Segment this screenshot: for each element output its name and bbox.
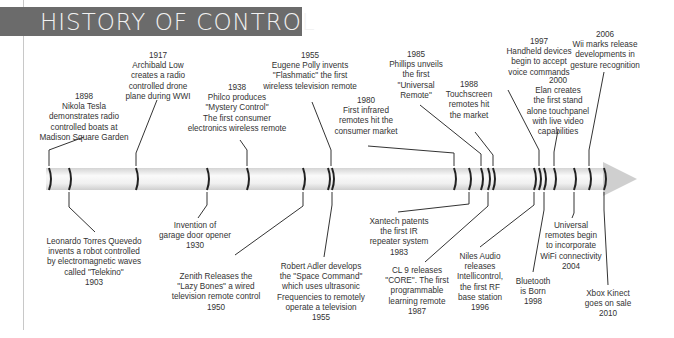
event-label-1955: 1955Eugene Polly invents"Flashmatic" the…: [263, 51, 357, 92]
event-label-1980: 1980First infraredremotes hit theconsume…: [334, 96, 397, 137]
event-text: base station: [457, 293, 503, 303]
event-text: Phillips unveils: [389, 60, 443, 70]
event-year: 2004: [540, 262, 601, 272]
event-year: 2010: [585, 309, 631, 319]
event-text: First infrared: [334, 106, 397, 116]
event-text: by electromagnetic waves: [47, 257, 142, 267]
event-label-1930: Invention ofgarage door opener1930: [159, 221, 231, 252]
event-year: 1998: [516, 297, 551, 307]
event-text: capabilities: [527, 127, 589, 137]
event-text: "CORE". The first: [385, 276, 448, 286]
event-text: garage door opener: [159, 231, 231, 241]
event-year: 1917: [125, 51, 190, 61]
event-label-1898: 1898Nikola Teslademonstrates radiocontro…: [39, 92, 128, 143]
event-label-1997: 1997Handheld devicesbegin to acceptvoice…: [506, 37, 571, 78]
event-text: programmable: [385, 286, 448, 296]
event-text: CL 9 releases: [385, 266, 448, 276]
event-text: Philco produces: [188, 93, 287, 103]
event-text: the market: [446, 111, 492, 121]
event-text: Niles Audio: [457, 252, 503, 262]
event-text: begin to accept: [506, 57, 571, 67]
event-text: "Flashmatic" the first: [263, 71, 357, 81]
event-text: "Lazy Bones" a wired: [172, 282, 261, 292]
event-year: 2006: [570, 30, 640, 40]
event-year: 1996: [457, 303, 503, 313]
event-label-1988: 1988Touchscreenremotes hitthe market: [446, 80, 492, 121]
event-text: learning remote: [385, 297, 448, 307]
event-text: Universal: [540, 221, 601, 231]
event-year: 1997: [506, 37, 571, 47]
event-text: the first IR: [369, 227, 428, 237]
event-text: Frequencies to remotely: [277, 293, 365, 303]
event-label-1903: Leonardo Torres Quevedoinvents a robot c…: [47, 237, 142, 288]
event-text: Zenith Releases the: [172, 272, 261, 282]
event-text: the first stand: [527, 96, 589, 106]
event-text: Elan creates: [527, 86, 589, 96]
event-text: Handheld devices: [506, 47, 571, 57]
event-year: 1903: [47, 278, 142, 288]
event-text: television remote control: [172, 292, 261, 302]
event-text: Leonardo Torres Quevedo: [47, 237, 142, 247]
event-text: which uses ultrasonic: [277, 282, 365, 292]
event-text: Robert Adler develops: [277, 262, 365, 272]
event-year: 1950: [172, 303, 261, 313]
arrow-head-icon: [603, 162, 637, 196]
event-text: the first RF: [457, 283, 503, 293]
event-label-1917: 1917Archibald Lowcreates a radiocontroll…: [125, 51, 190, 102]
event-text: repeater system: [369, 237, 428, 247]
event-text: releases: [457, 262, 503, 272]
event-label-1955: Robert Adler developsthe "Space Command"…: [277, 262, 365, 323]
event-text: wireless television remote: [263, 82, 357, 92]
event-text: Nikola Tesla: [39, 102, 128, 112]
event-label-1998: Bluetoothis Born1998: [516, 277, 551, 308]
event-year: 1955: [263, 51, 357, 61]
event-text: creates a radio: [125, 71, 190, 81]
event-text: invents a robot controlled: [47, 247, 142, 257]
event-year: 1930: [159, 241, 231, 251]
event-text: remotes begin: [540, 231, 601, 241]
event-text: developments in: [570, 50, 640, 60]
event-year: 2000: [527, 76, 589, 86]
event-text: controlled boats at: [39, 123, 128, 133]
event-text: Archibald Low: [125, 61, 190, 71]
event-text: is Born: [516, 287, 551, 297]
event-text: consumer market: [334, 127, 397, 137]
event-text: "Universal: [389, 81, 443, 91]
event-label-2004: Universalremotes beginto incorporateWiFi…: [540, 221, 601, 272]
event-label-1983: Xantech patentsthe first IRrepeater syst…: [369, 217, 428, 258]
event-year: 1988: [446, 80, 492, 90]
event-text: Remote": [389, 91, 443, 101]
event-label-1985: 1985Phillips unveilsthe first"UniversalR…: [389, 50, 443, 101]
event-text: the "Space Command": [277, 272, 365, 282]
event-text: "Mystery Control": [188, 103, 287, 113]
event-year: 1987: [385, 307, 448, 317]
event-year: 1983: [369, 248, 428, 258]
event-label-1996: Niles AudioreleasesIntellicontrol,the fi…: [457, 252, 503, 313]
event-text: electronics wireless remote: [188, 124, 287, 134]
event-text: remotes hit the: [334, 116, 397, 126]
timeline-bar: [46, 162, 637, 196]
event-text: Invention of: [159, 221, 231, 231]
event-text: Bluetooth: [516, 277, 551, 287]
event-label-1950: Zenith Releases the"Lazy Bones" a wiredt…: [172, 272, 261, 313]
event-text: called "Telekino": [47, 268, 142, 278]
event-text: The first consumer: [188, 114, 287, 124]
event-text: Eugene Polly invents: [263, 61, 357, 71]
event-label-2000: 2000Elan createsthe first standalone tou…: [527, 76, 589, 137]
event-text: alone touchpanel: [527, 107, 589, 117]
event-text: remotes hit: [446, 100, 492, 110]
event-text: controlled drone: [125, 82, 190, 92]
event-year: 1898: [39, 92, 128, 102]
event-text: Intellicontrol,: [457, 272, 503, 282]
event-year: 1955: [277, 313, 365, 323]
event-text: with live video: [527, 117, 589, 127]
event-text: the first: [389, 70, 443, 80]
event-year: 1985: [389, 50, 443, 60]
event-text: Xantech patents: [369, 217, 428, 227]
event-text: demonstrates radio: [39, 112, 128, 122]
event-label-1987: CL 9 releases"CORE". The firstprogrammab…: [385, 266, 448, 317]
event-text: gesture recognition: [570, 61, 640, 71]
event-text: Madison Square Garden: [39, 133, 128, 143]
event-text: plane during WWI: [125, 92, 190, 102]
event-text: Wii marks release: [570, 40, 640, 50]
